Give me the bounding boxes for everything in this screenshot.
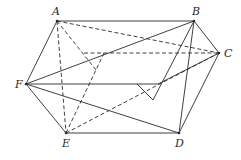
vertex-label-F: F: [14, 78, 23, 91]
vertex-label-C: C: [224, 47, 233, 60]
segments-group: [26, 21, 219, 133]
vertex-point-C: [218, 52, 221, 55]
vertex-label-E: E: [61, 137, 70, 150]
segment-EF-solid: [26, 84, 66, 133]
segment-AE-dashed: [57, 21, 66, 133]
vertex-point-D: [178, 132, 181, 135]
vertex-point-F: [25, 83, 28, 86]
geometry-figure: ABCDEF: [0, 0, 241, 160]
vertex-point-A: [56, 20, 59, 23]
vertex-labels-group: ABCDEF: [14, 5, 233, 150]
vertex-point-E: [65, 132, 68, 135]
segment-FB-solid: [26, 21, 194, 84]
segment-AQ-dashed: [57, 21, 96, 70]
vertex-label-D: D: [174, 137, 184, 150]
segment-BC-solid: [194, 21, 219, 53]
segment-FD-solid: [26, 84, 179, 133]
segment-BD-solid: [179, 21, 194, 133]
vertex-points-group: [25, 20, 221, 135]
segment-CD-solid: [179, 53, 219, 133]
vertex-label-B: B: [191, 5, 200, 18]
segment-AC-dashed: [57, 21, 219, 53]
segment-BS-solid: [153, 21, 194, 100]
vertex-point-B: [193, 20, 196, 23]
segment-H2S-solid: [137, 84, 153, 100]
vertex-label-A: A: [51, 5, 60, 18]
segment-PE-dashed: [66, 53, 104, 133]
